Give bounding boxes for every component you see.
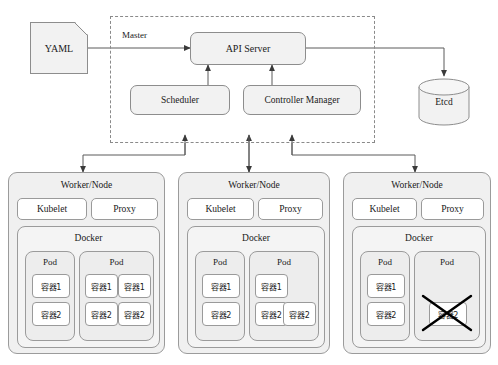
container-box[interactable]: 容器2 [85,302,118,326]
container-box[interactable]: 容器1 [202,274,240,298]
worker-node-3[interactable]: Worker/Node Kubelet Proxy Docker Pod 容器1… [343,172,491,354]
pod-box[interactable]: Pod 容器1 容器2 [25,251,75,341]
kubelet-box[interactable]: Kubelet [352,198,417,220]
worker-node-2[interactable]: Worker/Node Kubelet Proxy Docker Pod 容器1… [178,172,330,354]
proxy-box[interactable]: Proxy [258,198,323,220]
yaml-label: YAML [31,23,87,73]
scheduler-box[interactable]: Scheduler [130,85,230,115]
kubelet-box[interactable]: Kubelet [187,198,254,220]
pod-box[interactable]: Pod 容器1 容器1 容器2 容器2 [79,251,154,341]
docker-title: Docker [18,233,159,243]
container-box[interactable]: 容器1 [32,274,70,298]
node-title: Worker/Node [179,180,329,190]
pod-title: Pod [26,257,74,267]
container-box[interactable]: 容器2 [32,302,70,326]
container-box[interactable]: 容器2 [283,302,316,326]
api-server-box[interactable]: API Server [190,32,306,65]
container-box[interactable]: 容器1 [255,274,288,298]
etcd-database[interactable]: Etcd [418,78,470,126]
docker-box[interactable]: Docker Pod 容器1 容器2 Pod 容器2 [352,226,486,348]
node-title: Worker/Node [9,180,164,190]
container-box[interactable]: 容器2 [118,302,151,326]
proxy-box[interactable]: Proxy [421,198,484,220]
yaml-document: YAML [30,22,88,74]
pod-title: Pod [80,257,153,267]
container-box[interactable]: 容器1 [367,274,405,298]
controller-manager-box[interactable]: Controller Manager [243,85,361,115]
pod-title: Pod [415,257,479,267]
node-title: Worker/Node [344,180,490,190]
pod-title: Pod [196,257,244,267]
container-box[interactable]: 容器2 [367,302,405,326]
docker-title: Docker [188,233,324,243]
container-box[interactable]: 容器1 [85,274,118,298]
docker-box[interactable]: Docker Pod 容器1 容器2 Pod 容器1 容器2 容器2 [187,226,325,348]
docker-title: Docker [353,233,485,243]
pod-title: Pod [361,257,409,267]
pod-box[interactable]: Pod 容器1 容器2 [195,251,245,341]
master-label: Master [122,30,147,40]
docker-box[interactable]: Docker Pod 容器1 容器2 Pod 容器1 容器1 容器2 容器2 [17,226,160,348]
worker-node-1[interactable]: Worker/Node Kubelet Proxy Docker Pod 容器1… [8,172,165,354]
cross-out-icon [419,292,475,334]
proxy-box[interactable]: Proxy [91,198,158,220]
container-box[interactable]: 容器2 [202,302,240,326]
pod-box[interactable]: Pod 容器1 容器2 容器2 [249,251,319,341]
etcd-label: Etcd [418,78,470,126]
pod-box[interactable]: Pod 容器2 [414,251,480,341]
container-box[interactable]: 容器1 [118,274,151,298]
kubernetes-architecture-diagram: YAML Master API Server Scheduler Control… [0,0,498,365]
pod-title: Pod [250,257,318,267]
pod-box[interactable]: Pod 容器1 容器2 [360,251,410,341]
kubelet-box[interactable]: Kubelet [17,198,87,220]
